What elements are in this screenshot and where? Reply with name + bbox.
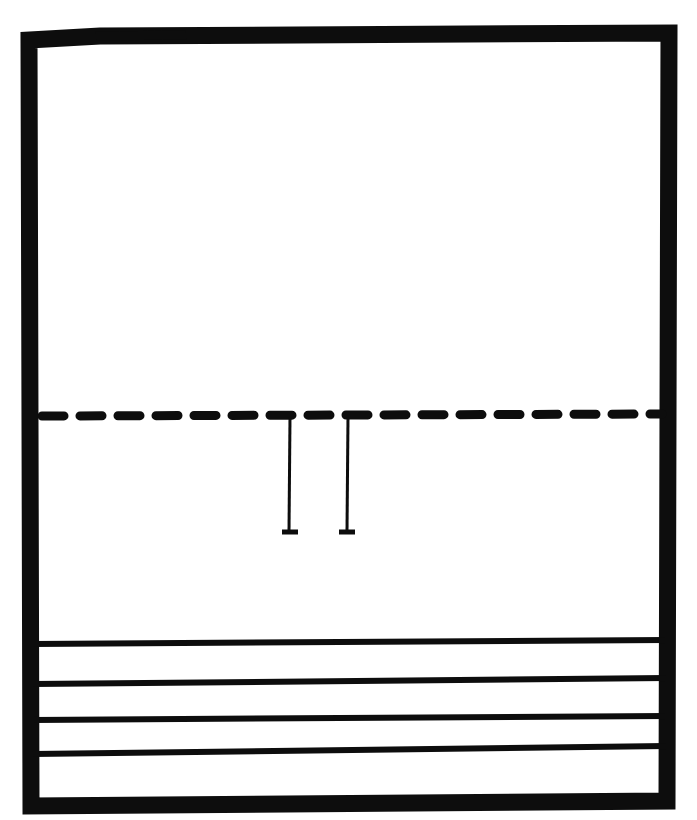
tick-left xyxy=(289,417,290,531)
dashed-midline xyxy=(42,414,662,416)
rule-line-1 xyxy=(33,640,666,644)
tick-right xyxy=(347,417,348,531)
dashed-midline-group xyxy=(42,414,662,416)
tick-right-group xyxy=(339,417,355,532)
rule-line-2 xyxy=(33,678,666,684)
diagram-canvas xyxy=(0,0,697,820)
rule-lines-group xyxy=(33,640,666,754)
top-edge-thickening xyxy=(96,35,186,36)
tick-marks-group xyxy=(282,417,355,532)
rule-line-4 xyxy=(33,746,666,754)
tick-left-group xyxy=(282,417,298,532)
diagram-svg xyxy=(0,0,697,820)
rule-line-3 xyxy=(33,716,666,720)
